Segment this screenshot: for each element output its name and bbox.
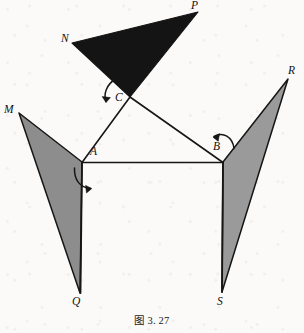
gray-flap-MAQ xyxy=(19,113,82,293)
gray-flap-BRS xyxy=(222,79,288,292)
vertex-label-N: N xyxy=(61,33,69,45)
vertex-label-Q: Q xyxy=(72,296,80,308)
vertex-label-R: R xyxy=(288,65,295,77)
rotation-arrow-at-C xyxy=(102,79,115,103)
figure-caption: 图 3. 27 xyxy=(0,312,304,327)
segment-BS xyxy=(222,163,223,293)
figure-3-27: A B C M N P Q R S 图 3. 27 xyxy=(0,0,304,333)
vertex-label-A: A xyxy=(90,146,97,158)
black-flap-NPC xyxy=(72,12,198,97)
vertex-label-P: P xyxy=(191,0,198,12)
segment-CB xyxy=(130,97,223,163)
figure-drawing-canvas xyxy=(0,0,304,333)
vertex-label-M: M xyxy=(4,104,14,116)
vertex-label-B: B xyxy=(213,141,220,153)
vertex-label-C: C xyxy=(115,92,123,104)
vertex-label-S: S xyxy=(217,296,223,308)
